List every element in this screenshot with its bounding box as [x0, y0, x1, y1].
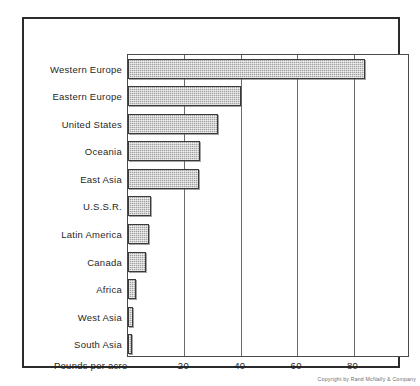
bar — [128, 252, 146, 272]
bar-row: Canada — [128, 248, 410, 276]
bar — [128, 114, 218, 134]
bar — [128, 307, 133, 327]
bar-row: South Asia — [128, 330, 410, 358]
bar-row: Eastern Europe — [128, 83, 410, 111]
bar-row: Africa — [128, 275, 410, 303]
bar-category-label: Oceania — [85, 146, 122, 157]
x-tick-label: 20 — [178, 360, 189, 371]
bar-category-label: United States — [62, 118, 122, 129]
bar-category-label: Canada — [87, 256, 122, 267]
bar-row: Latin America — [128, 220, 410, 248]
x-tick-label: 60 — [291, 360, 302, 371]
bar-row: East Asia — [128, 165, 410, 193]
bar — [128, 86, 241, 106]
x-tick-label: 40 — [234, 360, 245, 371]
x-axis-title: Pounds per acre — [54, 360, 122, 371]
bar-row: Western Europe — [128, 55, 410, 83]
bar-row: West Asia — [128, 303, 410, 331]
x-tick-label: 80 — [347, 360, 358, 371]
bar-category-label: South Asia — [74, 339, 122, 350]
bar — [128, 334, 132, 354]
bar — [128, 59, 365, 79]
bar-row: Oceania — [128, 138, 410, 166]
plot-area: Western EuropeEastern EuropeUnited State… — [127, 54, 409, 357]
bar-category-label: East Asia — [80, 173, 122, 184]
bar — [128, 196, 151, 216]
bar-category-label: Western Europe — [50, 63, 122, 74]
bar-row: U.S.S.R. — [128, 193, 410, 221]
copyright-note: Copyright by Rand McNally & Company — [204, 376, 416, 382]
x-axis-tick-labels: 20406080 — [127, 360, 409, 374]
bar — [128, 279, 136, 299]
chart-figure: Western EuropeEastern EuropeUnited State… — [0, 0, 420, 386]
bar-category-label: U.S.S.R. — [83, 201, 122, 212]
bar-category-label: West Asia — [78, 311, 122, 322]
chart-outer-frame: Western EuropeEastern EuropeUnited State… — [22, 17, 400, 368]
bar-category-label: Africa — [96, 284, 122, 295]
bar-row: United States — [128, 110, 410, 138]
bar — [128, 224, 149, 244]
bar-category-label: Latin America — [61, 229, 122, 240]
bar — [128, 169, 199, 189]
bar-category-label: Eastern Europe — [52, 91, 122, 102]
bar — [128, 141, 200, 161]
